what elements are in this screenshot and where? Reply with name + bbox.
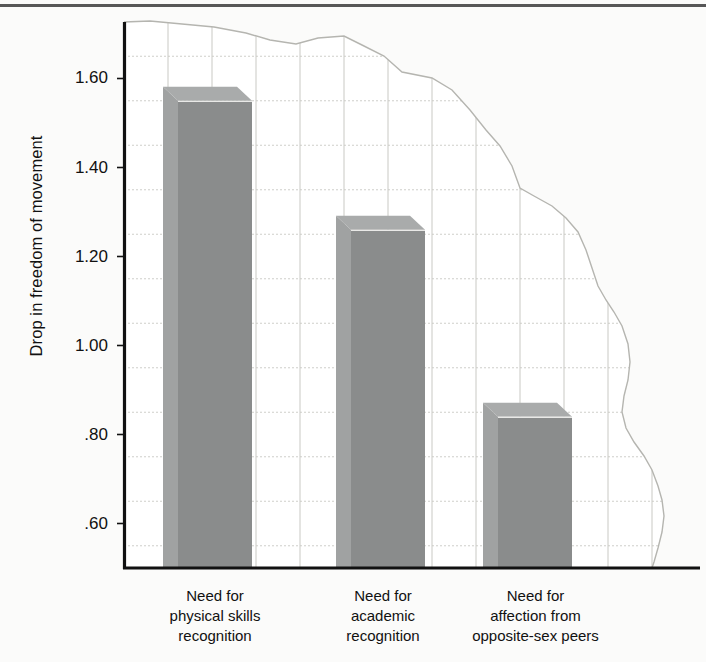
x-category-line: affection from [428, 606, 643, 626]
bar-front-face [498, 417, 572, 568]
bar-front-face [351, 230, 425, 568]
x-category-line: physical skills [120, 606, 310, 626]
x-category-label: Need for affection from opposite-sex pee… [428, 586, 643, 646]
bar-side-face [163, 87, 178, 568]
bar-top-face [163, 87, 252, 101]
figure-root: Drop in freedom of movement 1.60 1.40 1.… [0, 0, 706, 662]
bar-side-face [483, 403, 498, 568]
x-category-line: opposite-sex peers [428, 626, 643, 646]
bar-side-face [336, 216, 351, 568]
x-category-line: Need for [428, 586, 643, 606]
bar-top-face [336, 216, 425, 230]
bar-front-face [178, 101, 252, 568]
bar [483, 403, 572, 568]
bar-top-face [483, 403, 572, 417]
x-category-line: Need for [120, 586, 310, 606]
x-category-line: recognition [120, 626, 310, 646]
plot-area [0, 0, 706, 662]
x-category-label: Need for physical skills recognition [120, 586, 310, 646]
bar [336, 216, 425, 568]
bar [163, 87, 252, 568]
